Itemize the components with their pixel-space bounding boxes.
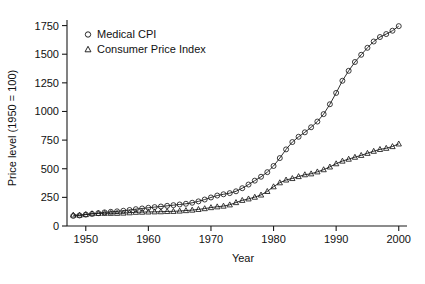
- y-tick-label: 250: [41, 191, 59, 203]
- x-tick-label: 1970: [199, 233, 223, 245]
- x-axis: 195019601970198019902000: [67, 226, 411, 245]
- legend-triangle-icon: [85, 46, 91, 52]
- y-tick-label: 750: [41, 134, 59, 146]
- chart-legend: Medical CPIConsumer Price Index: [85, 28, 206, 55]
- x-axis-title: Year: [232, 252, 255, 264]
- y-tick-label: 1000: [35, 105, 59, 117]
- y-tick-label: 1750: [35, 20, 59, 32]
- legend-label: Medical CPI: [97, 28, 156, 40]
- data-point-marker: [396, 141, 401, 146]
- legend-label: Consumer Price Index: [97, 43, 206, 55]
- y-tick-label: 0: [53, 220, 59, 232]
- legend-circle-icon: [85, 32, 90, 37]
- y-axis: 02505007501000125015001750: [35, 20, 67, 232]
- x-tick-label: 1960: [136, 233, 160, 245]
- y-axis-title: Price level (1950 = 100): [6, 70, 18, 186]
- x-tick-label: 1950: [74, 233, 98, 245]
- x-tick-label: 2000: [386, 233, 410, 245]
- x-tick-label: 1980: [261, 233, 285, 245]
- y-tick-label: 1500: [35, 48, 59, 60]
- chart-container: 02505007501000125015001750 1950196019701…: [0, 0, 425, 284]
- y-tick-label: 500: [41, 163, 59, 175]
- y-tick-label: 1250: [35, 77, 59, 89]
- price-level-chart: 02505007501000125015001750 1950196019701…: [0, 0, 425, 284]
- x-tick-label: 1990: [324, 233, 348, 245]
